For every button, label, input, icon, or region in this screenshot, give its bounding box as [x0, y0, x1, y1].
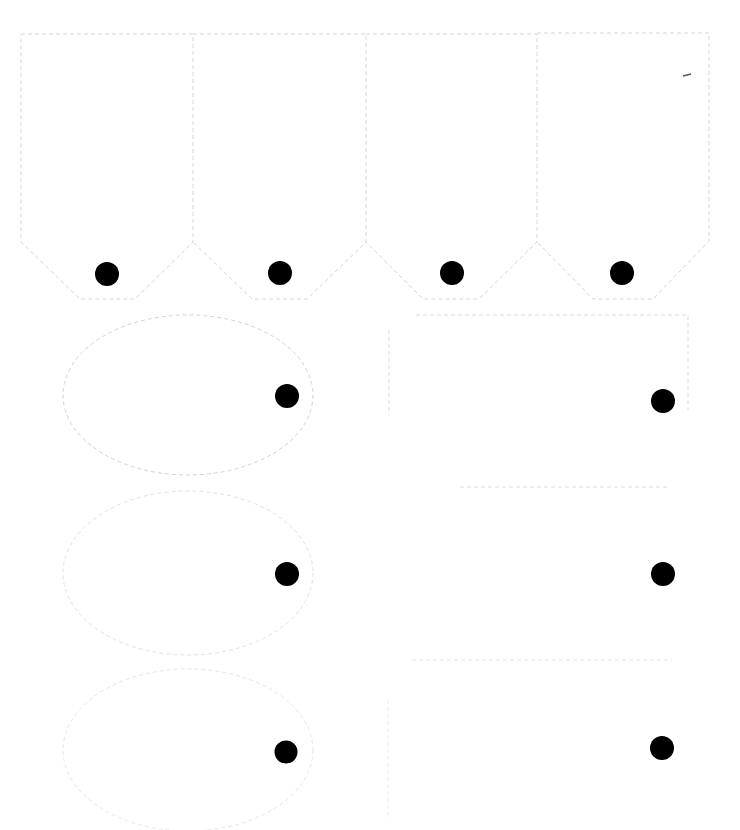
tag-sheet — [0, 0, 740, 830]
banner-tag-1-hole-icon — [95, 262, 119, 286]
oval-tag-2-hole-icon — [275, 562, 299, 586]
rect-tag-2-hole-icon — [651, 562, 675, 586]
oval-tag-3-hole-icon — [275, 741, 298, 764]
rect-tag-column — [388, 315, 688, 820]
printer-speck — [683, 74, 691, 76]
banner-tag-2-outline — [193, 34, 366, 299]
rect-tag-3-hole-icon — [650, 736, 674, 760]
banner-tag-3-outline — [366, 34, 537, 299]
banner-tag-3-hole-icon — [440, 261, 464, 285]
oval-tag-column — [63, 315, 313, 830]
oval-tag-1-hole-icon — [275, 384, 299, 408]
banner-tag-4-outline — [537, 33, 709, 299]
rect-tag-1-hole-icon — [651, 389, 675, 413]
banner-tag-row — [21, 33, 709, 299]
banner-tag-2-hole-icon — [268, 261, 292, 285]
rect-tag-1-outline — [389, 315, 688, 487]
banner-tag-4-hole-icon — [610, 261, 634, 285]
banner-tag-1-outline — [21, 34, 193, 299]
